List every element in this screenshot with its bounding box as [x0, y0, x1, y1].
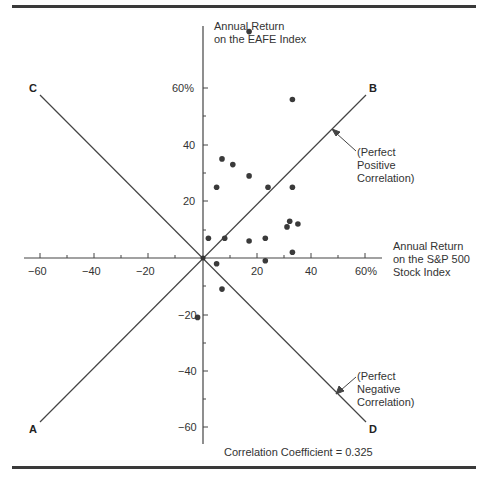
- corner-label-a: A: [29, 423, 37, 435]
- corner-label-d: D: [369, 423, 377, 435]
- y-tick-label: −60: [178, 421, 197, 434]
- y-tick-label: 60%: [172, 82, 194, 95]
- data-point: [219, 156, 225, 162]
- corner-label-c: C: [29, 82, 37, 94]
- data-point: [222, 235, 228, 241]
- data-point: [214, 261, 220, 267]
- y-tick-label: −40: [178, 365, 197, 378]
- data-point: [284, 224, 290, 230]
- y-tick-label: 20: [183, 195, 195, 208]
- x-tick-label: −20: [136, 265, 155, 278]
- data-point: [230, 162, 236, 168]
- data-point: [214, 185, 220, 191]
- data-point: [290, 250, 296, 256]
- y-axis-label-line2: on the EAFE Index: [214, 33, 306, 46]
- negative-annotation-line2: Negative: [357, 383, 400, 396]
- y-tick-label: 40: [183, 139, 195, 152]
- data-point: [246, 173, 252, 179]
- x-tick-label: −40: [82, 265, 101, 278]
- positive-annotation-line2: Positive: [357, 159, 396, 172]
- corner-label-b: B: [369, 82, 377, 94]
- x-tick-label: 60%: [355, 265, 377, 278]
- data-point: [263, 235, 269, 241]
- data-point: [287, 218, 293, 224]
- data-point: [290, 97, 296, 103]
- correlation-coefficient: Correlation Coefficient = 0.325: [224, 446, 373, 459]
- negative-arrow-head: [336, 386, 344, 394]
- negative-annotation-line1: (Perfect: [357, 370, 396, 383]
- data-point: [265, 185, 271, 191]
- origin-dot: [201, 256, 206, 261]
- data-point: [290, 185, 296, 191]
- negative-arrow-line: [341, 377, 356, 390]
- x-tick-label: −60: [28, 265, 47, 278]
- data-point: [246, 238, 252, 244]
- x-tick-label: 40: [305, 265, 317, 278]
- x-axis-label-line1: Annual Return: [393, 240, 463, 253]
- data-points: [195, 29, 301, 320]
- data-point: [219, 286, 225, 292]
- x-tick-label: 20: [251, 265, 263, 278]
- x-axis-label-line2: on the S&P 500: [393, 253, 470, 266]
- positive-arrow-line: [336, 133, 356, 151]
- data-point: [206, 235, 212, 241]
- y-axis-label-line1: Annual Return: [214, 20, 284, 33]
- data-point: [295, 221, 301, 227]
- positive-annotation-line3: Correlation): [357, 172, 414, 185]
- data-point: [263, 258, 269, 264]
- negative-annotation-line3: Correlation): [357, 396, 414, 409]
- positive-annotation-line1: (Perfect: [357, 146, 396, 159]
- y-tick-label: −20: [178, 309, 197, 322]
- x-axis-label-line3: Stock Index: [393, 266, 450, 279]
